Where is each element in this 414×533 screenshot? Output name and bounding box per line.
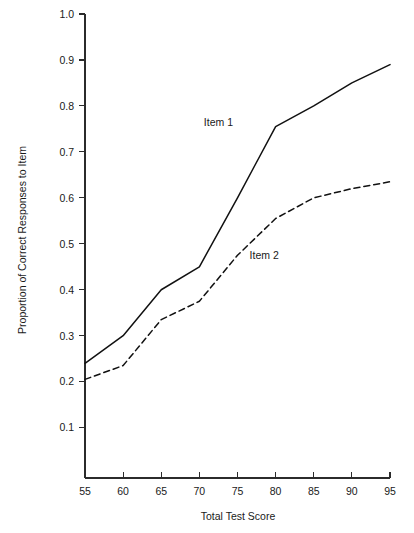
series-line-2 bbox=[85, 182, 390, 380]
y-axis-tick-label: 0.2 bbox=[59, 375, 74, 387]
y-axis-tick-label: 0.8 bbox=[59, 100, 74, 112]
y-axis-tick-label: 0.6 bbox=[59, 192, 74, 204]
x-axis-tick-label: 75 bbox=[232, 485, 244, 497]
y-axis-tick-label: 0.1 bbox=[59, 421, 74, 433]
series-label-2: Item 2 bbox=[250, 249, 279, 261]
y-axis-title: Proportion of Correct Responses to Item bbox=[16, 146, 28, 334]
y-axis-tick-label: 0.3 bbox=[59, 330, 74, 342]
series-label-1: Item 1 bbox=[204, 116, 233, 128]
y-axis-tick-label: 0.5 bbox=[59, 238, 74, 250]
y-axis-tick-label: 0.4 bbox=[59, 284, 74, 296]
x-axis-tick-label: 70 bbox=[194, 485, 206, 497]
data-series-group bbox=[85, 65, 390, 380]
chart-container: 0.10.20.30.40.50.60.70.80.91.0 556065707… bbox=[0, 0, 414, 533]
x-axis-tick-label: 80 bbox=[270, 485, 282, 497]
line-chart-plot: 0.10.20.30.40.50.60.70.80.91.0 556065707… bbox=[0, 0, 414, 533]
x-axis-tick-label: 90 bbox=[346, 485, 358, 497]
series-line-1 bbox=[85, 65, 390, 364]
y-axis: 0.10.20.30.40.50.60.70.80.91.0 bbox=[59, 8, 85, 478]
x-axis-tick-label: 55 bbox=[79, 485, 91, 497]
y-axis-tick-label: 0.9 bbox=[59, 54, 74, 66]
y-axis-tick-label: 1.0 bbox=[59, 8, 74, 20]
x-axis-tick-label: 65 bbox=[155, 485, 167, 497]
x-axis-tick-label: 95 bbox=[384, 485, 396, 497]
x-axis-tick-label: 85 bbox=[308, 485, 320, 497]
x-axis-tick-label: 60 bbox=[117, 485, 129, 497]
x-axis: 556065707580859095 bbox=[79, 472, 396, 497]
x-axis-title: Total Test Score bbox=[201, 510, 276, 522]
y-axis-tick-label: 0.7 bbox=[59, 146, 74, 158]
